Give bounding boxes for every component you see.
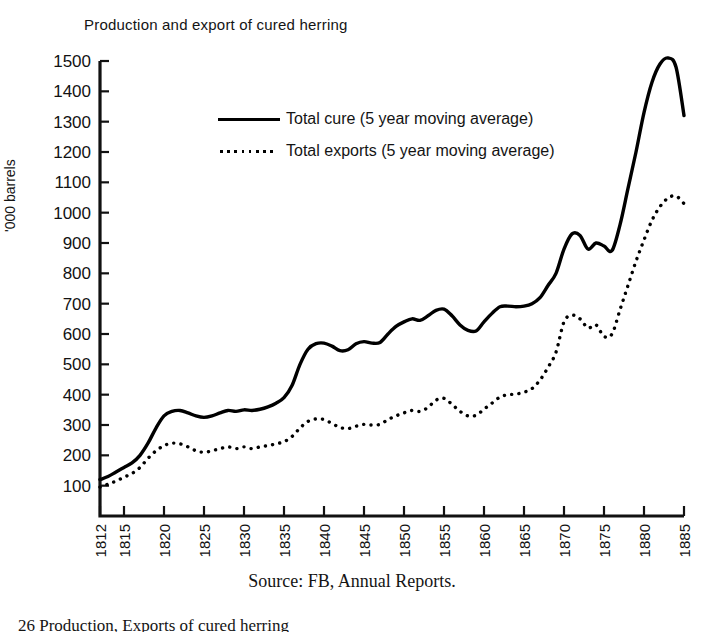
x-axis-ticks: 1812181518201825183018351840184518501855… — [92, 506, 693, 557]
figure-caption: 26 Production, Exports of cured herring — [18, 616, 289, 632]
x-tick-label: 1875 — [596, 524, 613, 557]
y-tick-label: 1500 — [53, 52, 91, 71]
x-tick-label: 1815 — [116, 524, 133, 557]
y-tick-label: 300 — [63, 416, 91, 435]
legend-item-label: Total exports (5 year moving average) — [286, 142, 555, 160]
dotted-line-icon — [218, 144, 280, 158]
y-tick-label: 100 — [63, 477, 91, 496]
x-tick-label: 1855 — [436, 524, 453, 557]
x-tick-label: 1830 — [236, 524, 253, 557]
x-tick-label: 1860 — [476, 524, 493, 557]
legend-item-total-cure: Total cure (5 year moving average) — [218, 103, 555, 135]
y-tick-label: 400 — [63, 386, 91, 405]
y-tick-label: 200 — [63, 446, 91, 465]
x-tick-label: 1850 — [396, 524, 413, 557]
x-tick-label: 1825 — [196, 524, 213, 557]
legend-item-total-exports: Total exports (5 year moving average) — [218, 135, 555, 167]
y-tick-label: 500 — [63, 355, 91, 374]
series-line-total-exports — [100, 196, 684, 488]
x-tick-label: 1835 — [276, 524, 293, 557]
y-tick-label: 1000 — [53, 204, 91, 223]
x-tick-label: 1812 — [92, 524, 109, 557]
x-tick-label: 1820 — [156, 524, 173, 557]
source-note: Source: FB, Annual Reports. — [0, 571, 704, 592]
y-tick-label: 800 — [63, 264, 91, 283]
x-tick-label: 1840 — [316, 524, 333, 557]
y-tick-label: 700 — [63, 295, 91, 314]
legend-item-label: Total cure (5 year moving average) — [286, 110, 533, 128]
y-tick-label: 1200 — [53, 143, 91, 162]
x-tick-label: 1845 — [356, 524, 373, 557]
chart-legend: Total cure (5 year moving average) Total… — [218, 103, 555, 167]
x-tick-label: 1880 — [636, 524, 653, 557]
y-tick-label: 1400 — [53, 82, 91, 101]
y-tick-label: 1300 — [53, 113, 91, 132]
y-tick-label: 1100 — [54, 173, 91, 192]
y-tick-label: 600 — [63, 325, 91, 344]
y-tick-label: 900 — [63, 234, 91, 253]
x-tick-label: 1870 — [556, 524, 573, 557]
figure-container: Production and export of cured herring '… — [0, 0, 704, 632]
chart-plot: 1002003004005006007008009001000110012001… — [0, 0, 704, 575]
x-tick-label: 1885 — [676, 524, 693, 557]
x-tick-label: 1865 — [516, 524, 533, 557]
solid-line-icon — [218, 112, 280, 126]
